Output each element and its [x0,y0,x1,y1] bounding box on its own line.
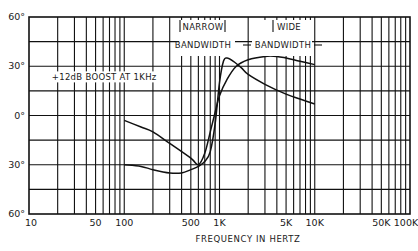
y-tick-label: 30° [8,159,25,170]
y-axis-ticks: 60°30°0°30°60° [8,11,25,219]
x-tick-label: 50 [90,217,102,228]
wide-label-line2: BANDWIDTH [255,40,311,50]
narrow-label-line2: BANDWIDTH [175,40,231,50]
x-tick-label: 10K [306,217,325,228]
x-axis-ticks: 10501005001K5K10K50K100K [25,217,418,228]
phase-response-chart: +12dB BOOST AT 1KHzNARROWBANDWIDTHWIDEBA… [0,0,418,251]
x-tick-label: 50K [372,217,391,228]
x-tick-label: 5K [280,217,293,228]
x-tick-label: 1K [213,217,226,228]
x-tick-label: 100 [115,217,133,228]
boost-annotation: +12dB BOOST AT 1KHz [52,72,157,82]
x-tick-label: 500 [182,217,200,228]
y-tick-label: 0° [14,110,25,121]
narrow-label-line1: NARROW [183,22,224,32]
x-tick-label: 100K [394,217,418,228]
y-tick-label: 30° [8,60,25,71]
y-tick-label: 60° [8,208,25,219]
x-tick-label: 10 [25,217,37,228]
wide-label-line1: WIDE [277,22,301,32]
annotations: +12dB BOOST AT 1KHzNARROWBANDWIDTHWIDEBA… [50,20,322,82]
x-axis-label: FREQUENCY IN HERTZ [196,234,301,244]
y-tick-label: 60° [8,11,25,22]
